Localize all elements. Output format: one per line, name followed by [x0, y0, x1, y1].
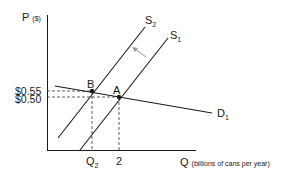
demand-curve-d1 — [55, 86, 212, 113]
qty-tick-q2: Q2 — [86, 155, 99, 169]
supply-label-s2: S2 — [145, 14, 156, 28]
supply-curve-s1 — [80, 38, 168, 150]
supply-demand-diagram: P($) Q(billions of cans per year) $0.55 … — [0, 0, 294, 176]
point-b-label: B — [87, 78, 94, 90]
shift-arrow-icon — [132, 47, 146, 57]
x-axis-label: Q(billions of cans per year) — [180, 156, 270, 168]
supply-label-s1: S1 — [170, 29, 181, 43]
demand-label-d1: D1 — [217, 107, 229, 121]
qty-tick-2: 2 — [116, 155, 122, 167]
supply-curve-s2 — [58, 27, 145, 138]
y-axis-label: P($) — [22, 11, 41, 23]
price-tick-050: $0.50 — [15, 93, 41, 105]
point-a-label: A — [113, 84, 121, 96]
